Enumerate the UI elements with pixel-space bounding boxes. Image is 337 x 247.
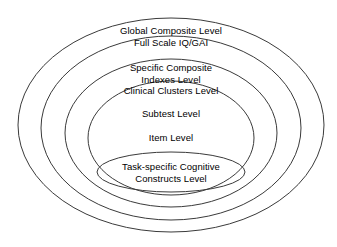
label-item: Item Level: [149, 132, 193, 144]
label-item-line-1: Item Level: [149, 132, 193, 144]
label-global-composite-line-2: Full Scale IQ/GAI: [120, 37, 222, 49]
label-subtest: Subtest Level: [142, 108, 200, 120]
label-specific-composite-line-3: Clinical Clusters Level: [124, 85, 219, 97]
label-task-specific-constructs: Task-specific Cognitive Constructs Level: [122, 161, 220, 184]
label-task-specific-constructs-line-2: Constructs Level: [122, 173, 220, 185]
label-task-specific-constructs-line-1: Task-specific Cognitive: [122, 161, 220, 173]
nested-levels-diagram: Global Composite Level Full Scale IQ/GAI…: [0, 0, 337, 247]
label-global-composite-line-1: Global Composite Level: [120, 25, 222, 37]
label-global-composite: Global Composite Level Full Scale IQ/GAI: [120, 25, 222, 48]
label-specific-composite-line-2: Indexes Level: [124, 74, 219, 86]
label-subtest-line-1: Subtest Level: [142, 108, 200, 120]
label-specific-composite-line-1: Specific Composite: [124, 62, 219, 74]
label-specific-composite: Specific Composite Indexes Level Clinica…: [124, 62, 219, 97]
ellipse-global-composite: [18, 18, 324, 232]
